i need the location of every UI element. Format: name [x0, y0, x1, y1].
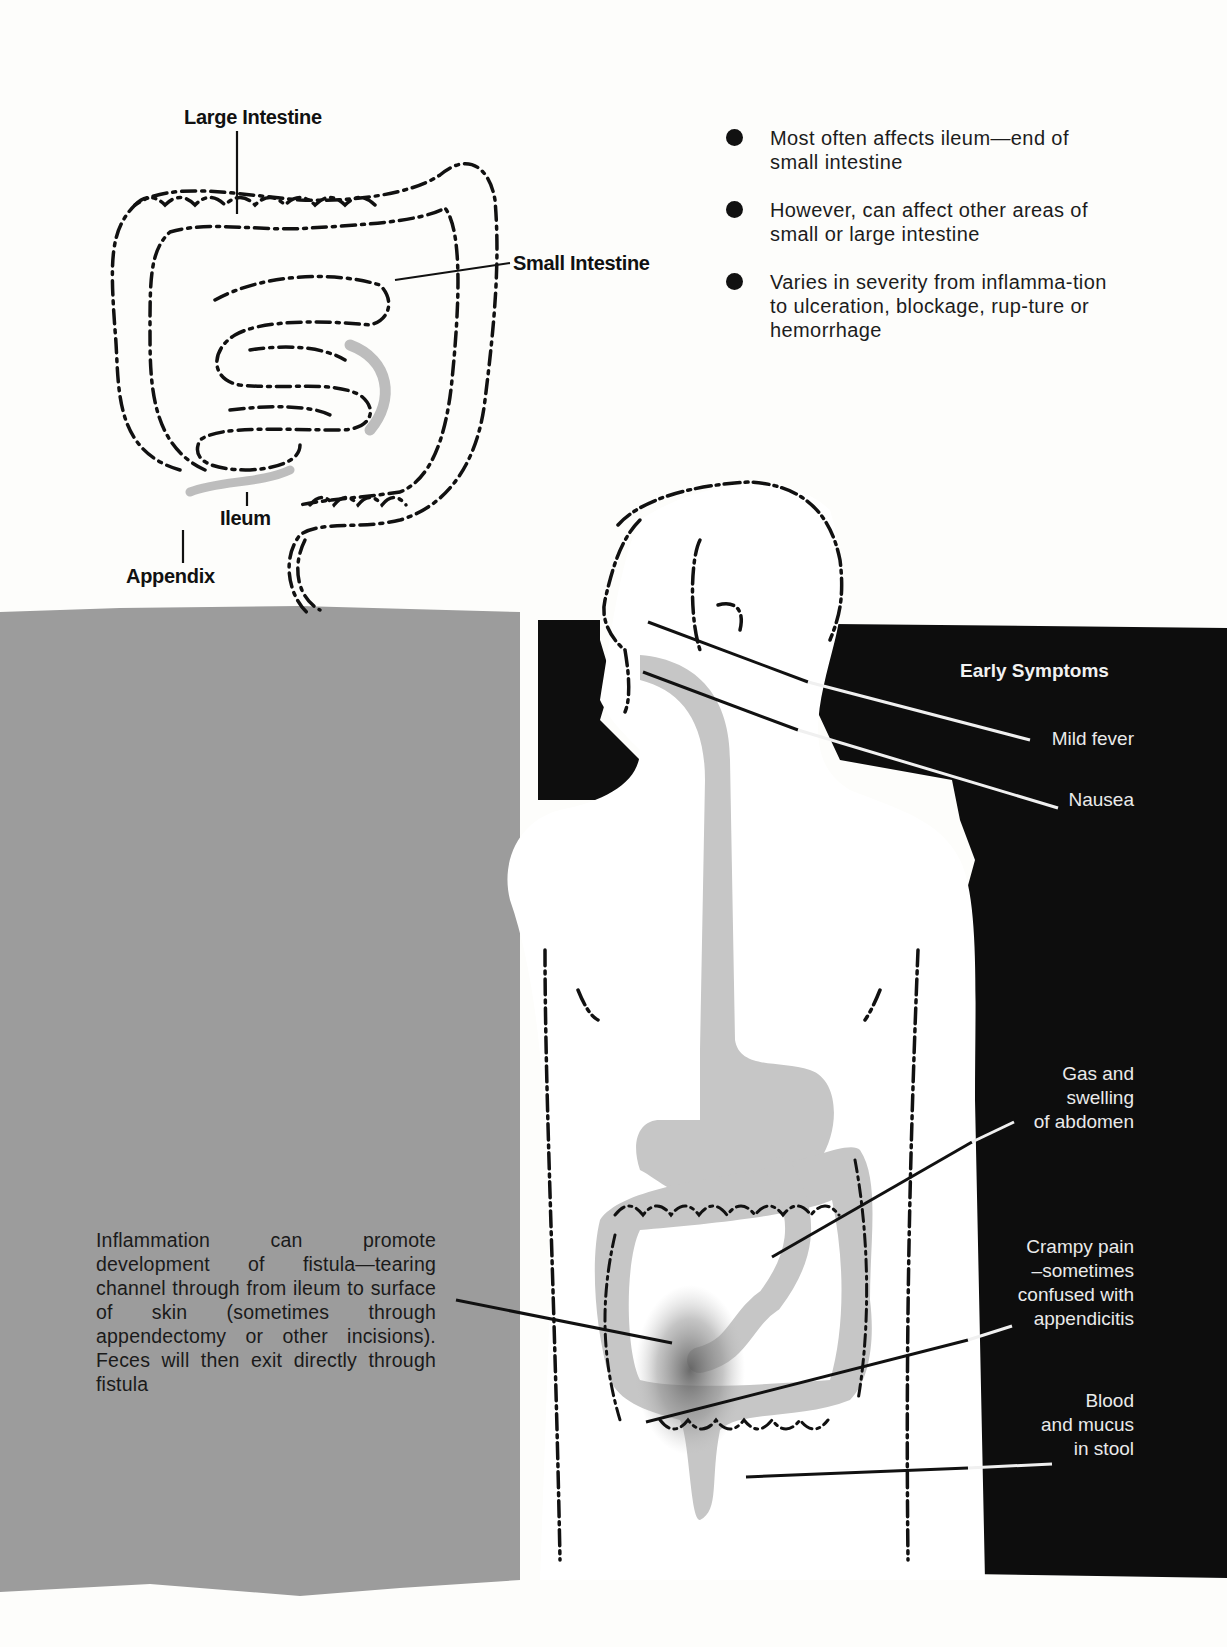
fact-item: Varies in severity from inflamma-tion to…	[728, 270, 1118, 342]
symptom-gas-swelling: Gas and swelling of abdomen	[1034, 1062, 1134, 1134]
bullet-dot-icon	[726, 201, 743, 218]
fact-text: Most often affects ileum—end of small in…	[770, 127, 1069, 173]
fact-item: Most often affects ileum—end of small in…	[728, 126, 1118, 174]
fact-text: However, can affect other areas of small…	[770, 199, 1088, 245]
label-appendix: Appendix	[126, 565, 215, 588]
fact-text: Varies in severity from inflamma-tion to…	[770, 271, 1107, 341]
fact-item: However, can affect other areas of small…	[728, 198, 1118, 246]
label-ileum: Ileum	[220, 507, 271, 530]
facts-list: Most often affects ileum—end of small in…	[728, 126, 1118, 366]
gray-background-panel	[0, 606, 520, 1596]
symptom-mild-fever: Mild fever	[1052, 727, 1134, 751]
symptom-nausea: Nausea	[1069, 788, 1135, 812]
label-large-intestine: Large Intestine	[184, 106, 322, 129]
symptom-crampy-pain: Crampy pain –sometimes confused with app…	[1018, 1235, 1134, 1331]
fistula-note: Inflammation can promote development of …	[96, 1228, 436, 1396]
symptom-blood-mucus: Blood and mucus in stool	[1041, 1389, 1134, 1461]
symptoms-title: Early Symptoms	[960, 660, 1109, 682]
label-small-intestine: Small Intestine	[513, 252, 650, 275]
colon-diagram	[112, 164, 497, 615]
bullet-dot-icon	[726, 273, 743, 290]
bullet-dot-icon	[726, 129, 743, 146]
